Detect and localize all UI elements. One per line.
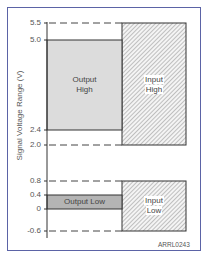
- tick-label-0: 0: [17, 205, 41, 213]
- tick-label-5-0: 5.0: [17, 36, 41, 44]
- tick-label-0-8: 0.8: [17, 177, 41, 185]
- output-high-label-line1: Output: [47, 75, 122, 85]
- input-high-label-line1: Input: [144, 75, 164, 84]
- input-high-label: Input High: [122, 75, 186, 95]
- input-low-label: Input Low: [122, 196, 186, 216]
- figure-id-label: ARRL0243: [158, 241, 190, 248]
- input-low-label-line1: Input: [144, 196, 164, 205]
- input-low-label-line2: Low: [146, 206, 163, 215]
- input-high-label-line2: High: [145, 85, 163, 94]
- tick-label-minus-0-6: -0.6: [17, 227, 41, 235]
- y-axis-title: Signal Voltage Range (V): [15, 61, 24, 171]
- output-high-label: Output High: [47, 75, 122, 95]
- output-low-label: Output Low: [47, 197, 122, 207]
- tick-label-5-5: 5.5: [17, 19, 41, 27]
- output-high-label-line2: High: [47, 85, 122, 95]
- tick-label-0-4: 0.4: [17, 191, 41, 199]
